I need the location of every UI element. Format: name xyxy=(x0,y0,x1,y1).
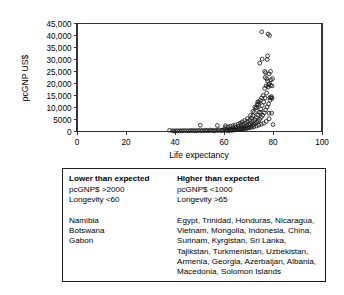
column-entries: Namibia Botswana Gabon xyxy=(69,216,173,247)
chart-svg: 0500010,00015,00020,00025,00030,00035,00… xyxy=(0,0,344,160)
column-header: Lower than expected xyxy=(69,174,173,185)
y-tick-label: 30,000 xyxy=(46,56,71,65)
y-tick-label: 10,000 xyxy=(46,104,71,113)
spacer xyxy=(69,205,173,216)
column-entries: Egypt, Trinidad, Honduras, Nicaragua, Vi… xyxy=(177,216,319,277)
list-item: Egypt, Trinidad, Honduras, Nicaragua, xyxy=(177,216,319,226)
list-item: Macedonia, Solomon Islands xyxy=(177,267,319,277)
spacer xyxy=(177,205,319,216)
x-tick-label: 0 xyxy=(75,138,80,147)
x-tick-label: 80 xyxy=(268,138,278,147)
data-point xyxy=(260,57,264,61)
data-point xyxy=(262,100,266,104)
column-header: Higher than expected xyxy=(177,174,319,185)
data-point xyxy=(265,91,269,95)
list-item: Gabon xyxy=(69,236,173,246)
figure-root: 0500010,00015,00020,00025,00030,00035,00… xyxy=(0,0,344,295)
y-axis-ticks: 0500010,00015,00020,00025,00030,00035,00… xyxy=(46,20,77,137)
y-tick-label: 15,000 xyxy=(46,92,71,101)
y-tick-label: 40,000 xyxy=(46,32,71,41)
chart-frame xyxy=(77,24,322,132)
x-tick-label: 40 xyxy=(170,138,180,147)
scatter-chart: 0500010,00015,00020,00025,00030,00035,00… xyxy=(0,0,344,160)
list-item: Namibia xyxy=(69,216,173,226)
y-tick-label: 5000 xyxy=(53,116,72,125)
list-item: Tajikstan, Turkmenistan, Uzbekistan, xyxy=(177,247,319,257)
y-tick-label: 35,000 xyxy=(46,44,71,53)
data-point xyxy=(267,111,271,115)
list-item: Vietnam, Mongolia, Indonesia, China, xyxy=(177,226,319,236)
x-tick-label: 60 xyxy=(219,138,229,147)
column-criteria-1: Longevity >65 xyxy=(177,195,319,205)
plot-frame xyxy=(77,24,322,132)
y-tick-label: 20,000 xyxy=(46,80,71,89)
x-tick-label: 20 xyxy=(121,138,131,147)
list-item: Armenia, Georgia, Azerbaijan, Albania, xyxy=(177,257,319,267)
column-criteria-0: pcGNP$ >2000 xyxy=(69,185,173,195)
data-point xyxy=(258,61,262,65)
column-criteria-1: Longevity <60 xyxy=(69,195,173,205)
table-column-higher: Higher than expected pcGNP$ <1000 Longev… xyxy=(177,174,319,277)
x-axis-ticks: 020406080100 xyxy=(75,132,330,147)
data-point xyxy=(271,123,275,127)
y-tick-label: 0 xyxy=(67,128,72,137)
data-point xyxy=(198,123,202,127)
y-tick-label: 45,000 xyxy=(46,20,71,29)
data-point xyxy=(260,30,264,34)
list-item: Botswana xyxy=(69,226,173,236)
y-tick-label: 25,000 xyxy=(46,68,71,77)
x-tick-label: 100 xyxy=(315,138,329,147)
y-axis-title: pcGNP US$ xyxy=(20,54,30,101)
column-criteria-0: pcGNP$ <1000 xyxy=(177,185,319,195)
list-item: Surinam, Kyrgistan, Sri Lanka, xyxy=(177,236,319,246)
x-axis-title: Life expectancy xyxy=(169,150,229,160)
data-point xyxy=(215,124,219,128)
data-points-layer xyxy=(168,30,275,133)
table-column-lower: Lower than expected pcGNP$ >2000 Longevi… xyxy=(69,174,177,277)
summary-table: Lower than expected pcGNP$ >2000 Longevi… xyxy=(62,168,326,282)
